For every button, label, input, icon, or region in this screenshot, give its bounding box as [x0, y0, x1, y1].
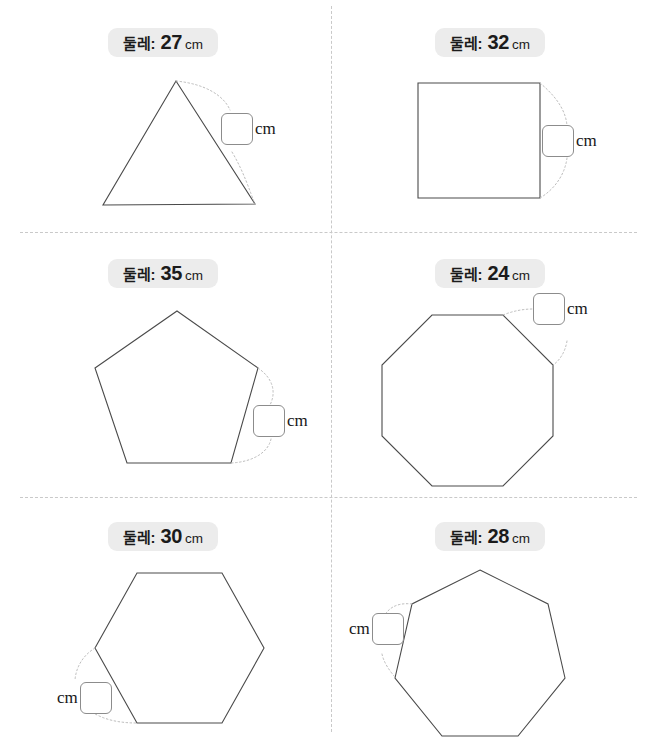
- answer-input-triangle[interactable]: [221, 113, 253, 145]
- worksheet-page: 둘레: 27 cm cm 둘레: 32 cm: [0, 0, 653, 737]
- perimeter-pill-pentagon: 둘레: 35 cm: [108, 259, 218, 288]
- panel-heptagon: 둘레: 28 cm cm: [327, 498, 653, 737]
- answer-input-pentagon[interactable]: [253, 405, 285, 437]
- answer-group-square: cm: [542, 125, 597, 157]
- perimeter-unit: cm: [512, 532, 530, 546]
- answer-unit-label: cm: [255, 120, 276, 138]
- perimeter-value: 32: [487, 32, 509, 52]
- perimeter-label: 둘레:: [450, 36, 482, 51]
- perimeter-pill-octagon: 둘레: 24 cm: [435, 259, 545, 288]
- panel-triangle: 둘레: 27 cm cm: [0, 0, 326, 232]
- perimeter-unit: cm: [512, 38, 530, 52]
- answer-unit-label: cm: [349, 620, 370, 638]
- leader-line-bottom: [382, 654, 395, 678]
- answer-unit-label: cm: [57, 689, 78, 707]
- perimeter-pill-hexagon: 둘레: 30 cm: [108, 522, 218, 551]
- perimeter-label: 둘레:: [123, 36, 155, 51]
- leader-line-bottom: [232, 152, 255, 204]
- perimeter-value: 27: [160, 32, 182, 52]
- panel-octagon: 둘레: 24 cm cm: [327, 233, 653, 497]
- answer-input-octagon[interactable]: [533, 293, 565, 325]
- answer-input-square[interactable]: [542, 125, 574, 157]
- perimeter-value: 35: [160, 263, 182, 283]
- answer-input-heptagon[interactable]: [372, 613, 404, 645]
- panel-pentagon: 둘레: 35 cm cm: [0, 233, 326, 497]
- perimeter-pill-triangle: 둘레: 27 cm: [108, 28, 218, 57]
- leader-line-top: [503, 309, 533, 315]
- perimeter-unit: cm: [512, 269, 530, 283]
- panel-hexagon: 둘레: 30 cm cm: [0, 498, 326, 737]
- answer-unit-label: cm: [576, 132, 597, 150]
- answer-group-hexagon: cm: [57, 682, 112, 714]
- perimeter-pill-heptagon: 둘레: 28 cm: [435, 522, 545, 551]
- perimeter-label: 둘레:: [450, 267, 482, 282]
- answer-group-octagon: cm: [533, 293, 588, 325]
- square-shape: [418, 83, 540, 198]
- answer-input-hexagon[interactable]: [80, 682, 112, 714]
- leader-line-top: [75, 648, 95, 680]
- answer-unit-label: cm: [287, 412, 308, 430]
- perimeter-unit: cm: [185, 269, 203, 283]
- answer-unit-label: cm: [567, 300, 588, 318]
- answer-group-pentagon: cm: [253, 405, 308, 437]
- leader-line-bottom: [553, 341, 567, 365]
- leader-line-bottom: [540, 158, 567, 198]
- leader-line-top: [258, 368, 273, 405]
- perimeter-value: 30: [160, 526, 182, 546]
- perimeter-unit: cm: [185, 532, 203, 546]
- perimeter-value: 24: [487, 263, 509, 283]
- leader-line-top: [540, 83, 567, 126]
- perimeter-value: 28: [487, 526, 509, 546]
- answer-group-heptagon: cm: [349, 613, 404, 645]
- perimeter-label: 둘레:: [123, 530, 155, 545]
- leader-line-bottom: [231, 439, 271, 463]
- hexagon-shape: [95, 573, 264, 723]
- panel-square: 둘레: 32 cm cm: [327, 0, 653, 232]
- perimeter-label: 둘레:: [450, 530, 482, 545]
- octagon-shape: [382, 315, 553, 486]
- perimeter-label: 둘레:: [123, 267, 155, 282]
- perimeter-pill-square: 둘레: 32 cm: [435, 28, 545, 57]
- pentagon-shape: [95, 311, 258, 463]
- heptagon-shape: [395, 570, 565, 736]
- perimeter-unit: cm: [185, 38, 203, 52]
- leader-line-top: [176, 81, 230, 110]
- answer-group-triangle: cm: [221, 113, 276, 145]
